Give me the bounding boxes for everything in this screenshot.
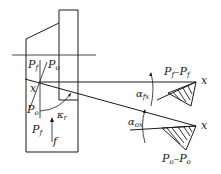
feed-arrow-icon [50,117,54,122]
label-alpha-fx: αfx [136,88,149,101]
label-x-point: x [30,82,37,95]
cutting-tool-angle-diagram: Pf Po x Po κr Pf f Pf–Pf x αfx αox x Po–… [0,0,221,174]
alpha-fx-arc [151,73,153,106]
label-po-top: Po [47,58,60,72]
label-section-pf: Pf–Pf [163,65,191,79]
label-pf-bottom: Pf [31,123,43,137]
section-po [130,109,196,150]
label-x-ortho: x [201,119,208,132]
label-feed: f [52,135,59,148]
label-pf-top: Pf [27,58,39,72]
label-section-po: Po–Po [161,152,191,166]
cutting-edge-line [25,79,196,126]
label-alpha-ox: αox [128,116,143,129]
label-kappa-r: κr [56,109,68,122]
alpha-ox-arrow-icon [143,109,146,113]
label-x-feed: x [201,74,208,87]
kappa-arc [40,93,71,111]
label-po-left: Po [26,103,39,117]
